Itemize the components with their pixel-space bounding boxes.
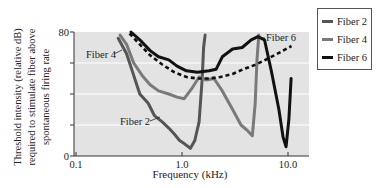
annotation-label: Fiber 2 — [120, 116, 150, 127]
y-tick-label: 0 — [64, 151, 69, 162]
legend-swatch — [322, 56, 333, 59]
x-axis-label: Frequency (kHz) — [153, 168, 228, 181]
legend-item-fiber-6: Fiber 6 — [322, 48, 371, 66]
x-tick-label: 0.1 — [69, 159, 82, 170]
legend: Fiber 2 Fiber 4 Fiber 6 — [317, 8, 372, 70]
annotation-label: Fiber 4 — [86, 49, 117, 60]
y-axis-label: Threshold intensity (relative dB)require… — [12, 28, 51, 166]
legend-swatch — [322, 38, 333, 41]
y-axis-label-line: Threshold intensity (relative dB) — [12, 28, 24, 166]
legend-item-fiber-4: Fiber 4 — [322, 30, 371, 48]
x-tick-label: 10.0 — [279, 159, 297, 170]
legend-label: Fiber 2 — [337, 16, 367, 27]
y-axis-label-line: required to stimulate fiber above — [26, 28, 37, 165]
y-axis-label-line: spontaneous firing rate — [40, 49, 51, 146]
legend-swatch — [322, 20, 333, 23]
legend-item-fiber-2: Fiber 2 — [322, 12, 371, 30]
annotation-label: Fiber 6 — [266, 32, 296, 43]
legend-label: Fiber 4 — [337, 34, 367, 45]
y-tick-label: 80 — [59, 27, 70, 38]
legend-label: Fiber 6 — [337, 52, 367, 63]
